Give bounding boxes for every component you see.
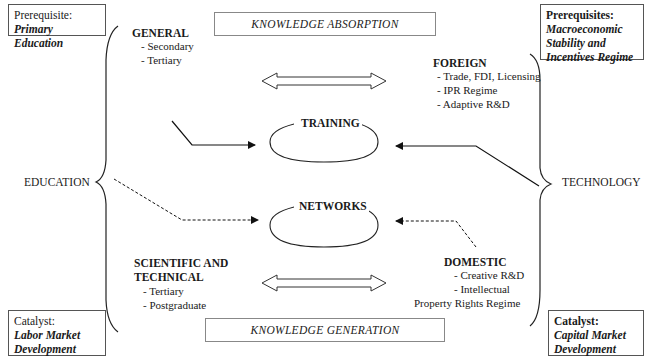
catalyst-line-1: Capital Market (554, 328, 638, 342)
general-to-training-arrow (172, 121, 255, 145)
domestic-item: - Creative R&D (432, 268, 524, 282)
scientific-heading-line-2: TECHNICAL (134, 270, 228, 284)
generation-double-arrow (262, 275, 386, 291)
education-to-networks-arrow (114, 179, 258, 220)
catalyst-line-2: Development (14, 342, 100, 356)
prerequisites-macro-box: Prerequisites: Macroeconomic Stability a… (540, 4, 644, 60)
networks-label: NETWORKS (297, 200, 369, 212)
prerequisites-label: Prerequisites: (546, 8, 638, 22)
general-item: - Tertiary (132, 53, 194, 67)
foreign-heading: FOREIGN (433, 57, 541, 69)
technology-label: TECHNOLOGY (562, 176, 641, 188)
domestic-item: Property Rights Regime (414, 296, 524, 310)
catalyst-line-2: Development (554, 342, 638, 356)
knowledge-generation-banner: KNOWLEDGE GENERATION (205, 318, 445, 342)
prerequisite-label: Prerequisite: (14, 8, 100, 22)
knowledge-absorption-banner: KNOWLEDGE ABSORPTION (214, 12, 436, 36)
domestic-heading: DOMESTIC (432, 256, 524, 268)
foreign-item: - Trade, FDI, Licensing (433, 69, 541, 83)
scientific-technical-group: SCIENTIFIC AND TECHNICAL - Tertiary - Po… (134, 256, 228, 312)
general-item: - Secondary (132, 39, 194, 53)
prerequisite-value: Primary Education (14, 22, 100, 50)
domestic-item: - Intellectual (432, 282, 524, 296)
general-heading: GENERAL (132, 27, 194, 39)
foreign-item: - Adaptive R&D (433, 97, 541, 111)
scientific-heading-line-1: SCIENTIFIC AND (134, 256, 228, 270)
training-label: TRAINING (299, 117, 362, 129)
foreign-group: FOREIGN - Trade, FDI, Licensing - IPR Re… (433, 57, 541, 111)
foreign-item: - IPR Regime (433, 83, 541, 97)
training-ellipse (270, 124, 378, 162)
catalyst-capital-box: Catalyst: Capital Market Development (548, 310, 644, 356)
catalyst-line-1: Labor Market (14, 328, 100, 342)
prerequisites-line-2: Stability and (546, 36, 638, 50)
general-group: GENERAL - Secondary - Tertiary (132, 27, 194, 67)
scientific-item: - Postgraduate (134, 298, 228, 312)
domestic-group: DOMESTIC - Creative R&D - Intellectual P… (432, 256, 524, 310)
technology-to-training-arrow (396, 146, 539, 186)
education-label: EDUCATION (24, 176, 90, 188)
prerequisite-primary-education-box: Prerequisite: Primary Education (8, 4, 106, 36)
domestic-to-networks-arrow (396, 221, 476, 247)
prerequisites-line-1: Macroeconomic (546, 22, 638, 36)
catalyst-label: Catalyst: (554, 314, 638, 328)
scientific-item: - Tertiary (134, 284, 228, 298)
catalyst-label: Catalyst: (14, 314, 100, 328)
networks-ellipse (270, 207, 378, 247)
absorption-double-arrow (262, 73, 386, 89)
catalyst-labor-box: Catalyst: Labor Market Development (8, 310, 106, 356)
prerequisites-line-3: Incentives Regime (546, 50, 638, 64)
